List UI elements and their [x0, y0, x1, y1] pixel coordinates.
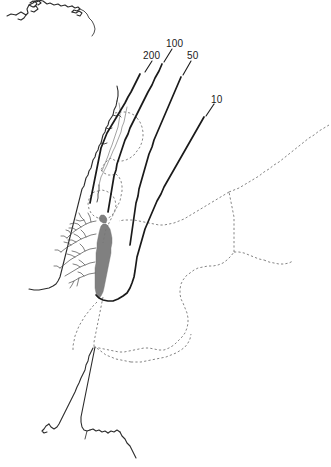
gulf-of-aqaba-coastline: [42, 347, 136, 458]
contour-label-10: 10: [211, 95, 223, 105]
contour-label-200: 200: [143, 51, 160, 61]
leader-50: [183, 61, 191, 75]
isohyet-line-50: [130, 77, 181, 245]
dead-sea: [95, 215, 112, 298]
isohyet-contour-map: 200 100 50 10: [0, 0, 331, 467]
northern-coast-fragment: [7, 0, 95, 36]
contour-label-100: 100: [166, 39, 183, 49]
map-canvas: [0, 0, 331, 467]
isohyet-line-200: [90, 74, 140, 203]
leader-200: [145, 61, 152, 72]
leader-10: [206, 104, 214, 116]
isohyet-line-100: [108, 64, 162, 212]
leader-100: [164, 49, 172, 62]
contour-label-50: 50: [187, 51, 199, 61]
